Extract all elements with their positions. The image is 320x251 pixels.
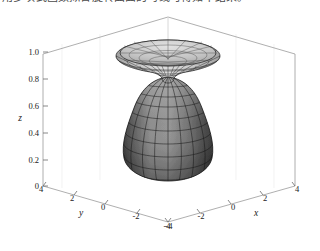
x-tick-2: 2 — [263, 193, 267, 203]
z-tick-1-0: 1.0 — [28, 47, 39, 57]
y-tick-0: 0 — [101, 202, 105, 212]
z-axis-tick-labels: 1.0 0.8 0.6 0.4 0.2 0 — [28, 47, 39, 191]
z-tick-0-4: 0.4 — [28, 128, 39, 138]
y-tick--2: -2 — [132, 211, 139, 221]
surface-plot-figure: 用多项式函数拟合旋转曲面的母线可得如下结果。 — [0, 0, 320, 251]
x-tick--4: -4 — [165, 221, 173, 231]
z-axis-label: z — [17, 113, 22, 123]
z-tick-0-6: 0.6 — [28, 101, 39, 111]
vase-interior — [120, 40, 216, 66]
surface-of-revolution — [116, 40, 220, 182]
surface-plot-canvas: 1.0 0.8 0.6 0.4 0.2 0 z 4 2 0 -2 -4 y — [0, 0, 320, 251]
x-tick--2: -2 — [197, 211, 204, 221]
z-tick-0-2: 0.2 — [28, 155, 39, 165]
x-axis-label: x — [253, 208, 259, 218]
y-axis-tick-labels: 4 2 0 -2 -4 — [39, 184, 171, 231]
vase-body — [122, 77, 214, 182]
z-axis-ticks — [43, 52, 48, 186]
z-tick-0-8: 0.8 — [28, 74, 39, 84]
x-tick-4: 4 — [295, 184, 300, 194]
y-tick-2: 2 — [70, 193, 74, 203]
y-axis-label: y — [78, 208, 84, 218]
x-axis-tick-labels: -4 -2 0 2 4 — [165, 184, 299, 231]
x-tick-0: 0 — [231, 202, 235, 212]
